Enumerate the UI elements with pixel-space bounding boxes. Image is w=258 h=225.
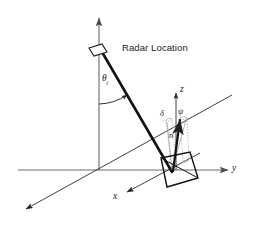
- delta-angle-label: δ: [160, 109, 164, 118]
- ground-axis-diagonal: [26, 95, 232, 209]
- radar-location-label: Radar Location: [122, 43, 188, 53]
- normal-vector-label: n: [169, 131, 173, 140]
- axis-y-label: y: [232, 164, 236, 174]
- radar-geometry-figure: Radar Location θi z y x δ ψ n: [0, 0, 258, 225]
- incidence-angle-label: θi: [102, 74, 108, 85]
- axis-x-label: x: [113, 192, 117, 202]
- axis-z-label: z: [180, 85, 184, 95]
- incidence-angle-arc: [99, 95, 127, 104]
- psi-angle-label: ψ: [178, 107, 183, 116]
- diagram-canvas: [0, 0, 258, 225]
- theta-subscript: i: [106, 80, 108, 86]
